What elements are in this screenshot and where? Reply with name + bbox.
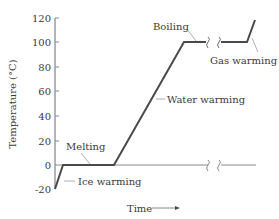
y-axis-title: Temperature (°C)	[7, 59, 18, 148]
label-gas-warming: Gas warming	[210, 55, 278, 66]
tick-label-20: 20	[38, 136, 51, 147]
label-ice-warming: Ice warming	[78, 176, 142, 187]
label-melting: Melting	[66, 141, 106, 152]
tick-label-0: 0	[45, 160, 51, 171]
label-water-warming: Water warming	[167, 94, 246, 105]
x-axis-title: Time	[127, 203, 152, 214]
tick-label-100: 100	[32, 37, 51, 48]
tick-label-120: 120	[32, 13, 51, 24]
time-arrow-icon	[152, 206, 180, 210]
axis-break-icon	[207, 160, 210, 171]
tick-label-neg20: -20	[35, 184, 51, 195]
tick-label-80: 80	[38, 62, 51, 73]
tick-label-40: 40	[38, 111, 51, 122]
tick-label-60: 60	[38, 86, 51, 97]
leader-lines	[64, 29, 258, 181]
y-ticks	[55, 18, 59, 141]
heating-curve-chart: 120 100 80 60 40 20 0 -20 Temperature (°…	[0, 0, 279, 219]
boiling-break	[207, 37, 221, 48]
y-tick-labels: 120 100 80 60 40 20 0 -20	[32, 13, 51, 195]
label-boiling: Boiling	[153, 21, 189, 32]
